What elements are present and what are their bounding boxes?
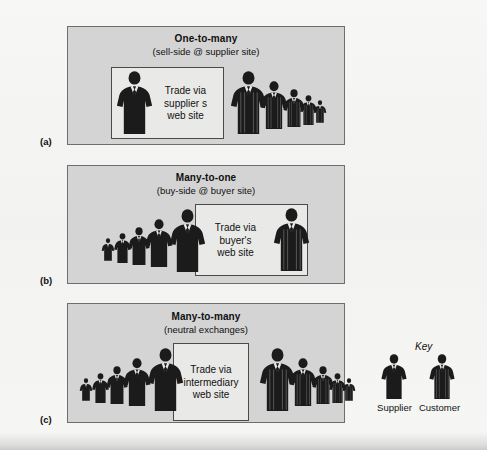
key-title: Key: [415, 341, 432, 352]
panel-letter-label: (c): [40, 414, 52, 425]
trade-mechanism-line: buyer's: [200, 235, 271, 248]
supplier-figure-icon: [168, 209, 207, 272]
customer-figure-icon: [313, 100, 327, 123]
trade-mechanism-label: Trade viaintermediaryweb site: [174, 364, 248, 402]
trade-mechanism-line: Trade via: [200, 222, 271, 235]
trade-mechanism-line: supplier s: [150, 98, 221, 111]
trade-mechanism-label: Trade viabuyer'sweb site: [200, 222, 271, 260]
panel-title: One-to-many: [68, 33, 344, 44]
trade-mechanism-line: web site: [200, 247, 271, 260]
customer-figure-icon: [428, 354, 456, 399]
supplier-figure-icon: [146, 348, 185, 411]
panel-title: Many-to-one: [68, 172, 344, 183]
page-bottom-shadow: [0, 432, 487, 450]
trade-mechanism-line: web site: [150, 110, 221, 123]
supplier-figure-icon: [380, 354, 408, 399]
key-item-label: Customer: [412, 402, 467, 413]
panel-letter-label: (b): [40, 275, 52, 286]
trade-mechanism-line: intermediary: [174, 377, 248, 390]
trade-mechanism-line: Trade via: [174, 364, 248, 377]
panel-subtitle: (buy-side @ buyer site): [68, 185, 344, 196]
trade-mechanism-line: Trade via: [150, 85, 221, 98]
figure-root: One-to-many(sell-side @ supplier site)Tr…: [0, 0, 487, 450]
panel-letter-label: (a): [40, 136, 52, 147]
panel-title: Many-to-many: [68, 311, 344, 322]
trade-mechanism-label: Trade viasupplier sweb site: [150, 85, 221, 123]
panel-subtitle: (sell-side @ supplier site): [68, 46, 344, 57]
customer-figure-icon: [272, 208, 311, 271]
model-panel: One-to-many(sell-side @ supplier site)Tr…: [67, 26, 345, 145]
trade-mechanism-line: web site: [174, 389, 248, 402]
panel-subtitle: (neutral exchanges): [68, 324, 344, 335]
supplier-figure-icon: [115, 71, 154, 134]
customer-figure-icon: [342, 378, 356, 401]
